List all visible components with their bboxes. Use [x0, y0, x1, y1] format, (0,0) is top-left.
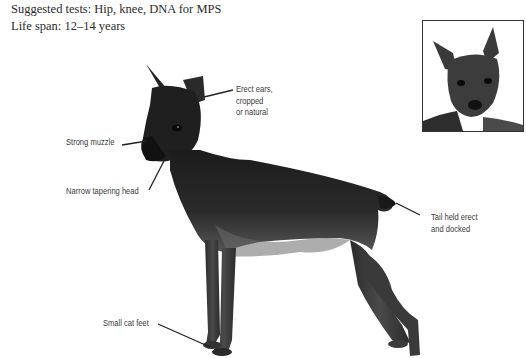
ears-leader-line — [204, 90, 233, 97]
dog-head-closeup — [423, 21, 523, 131]
callout-tail: Tail held erect and docked — [431, 212, 478, 235]
dog-silhouette — [141, 64, 420, 356]
feet-leader-line — [158, 324, 210, 347]
callout-small-cat-feet: Small cat feet — [103, 318, 149, 330]
callout-erect-ears: Erect ears, cropped or natural — [236, 84, 273, 119]
dog-photo-inset — [422, 20, 524, 132]
head-leader-line — [149, 157, 166, 190]
callout-narrow-tapering-head: Narrow tapering head — [66, 186, 139, 198]
tail-leader-line — [396, 203, 420, 215]
callout-strong-muzzle: Strong muzzle — [66, 137, 114, 149]
